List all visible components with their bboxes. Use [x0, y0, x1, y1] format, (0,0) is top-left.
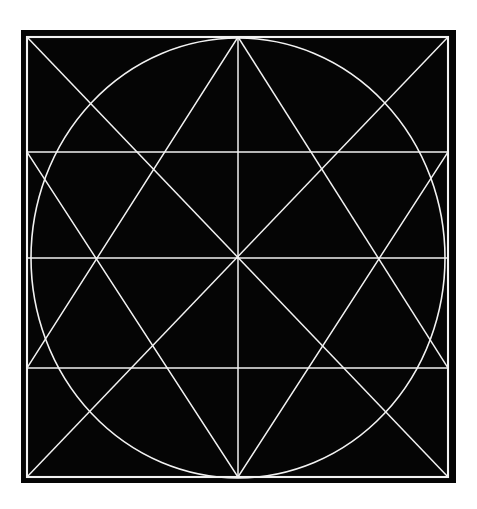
- construction-lines: [27, 37, 448, 478]
- figure-canvas: [0, 0, 477, 509]
- geometric-construction-svg: [0, 0, 477, 509]
